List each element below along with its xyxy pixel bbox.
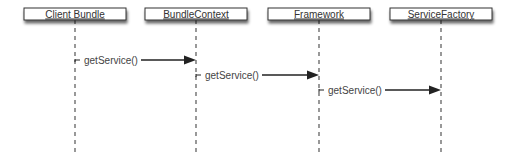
- arrowhead-icon: [184, 56, 196, 65]
- message-2: getService(): [196, 70, 319, 81]
- sequence-diagram: Client BundleBundleContextFrameworkServi…: [0, 0, 515, 160]
- message-3: getService(): [319, 85, 441, 96]
- participant-label: BundleContext: [163, 9, 229, 20]
- participant-framework: Framework: [268, 8, 370, 20]
- arrowhead-icon: [429, 86, 441, 95]
- message-label: getService(): [84, 55, 138, 66]
- message-label: getService(): [205, 70, 259, 81]
- message-1: getService(): [75, 55, 196, 66]
- participant-service-factory: ServiceFactory: [390, 8, 492, 20]
- participant-label: Framework: [294, 9, 345, 20]
- participant-client-bundle: Client Bundle: [24, 8, 126, 20]
- message-label: getService(): [328, 85, 382, 96]
- participant-bundle-context: BundleContext: [145, 8, 247, 20]
- participant-label: ServiceFactory: [408, 9, 475, 20]
- participant-label: Client Bundle: [45, 9, 105, 20]
- arrowhead-icon: [307, 71, 319, 80]
